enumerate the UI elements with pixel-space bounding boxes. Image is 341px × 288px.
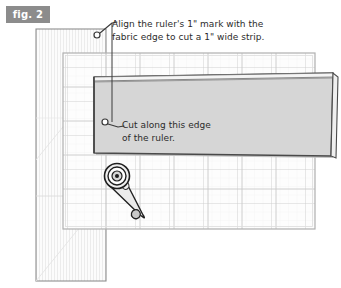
- cutter-axle: [115, 174, 119, 178]
- cut-callout-text: Cut along this edge of the ruler.: [122, 119, 262, 144]
- align-callout-marker: [94, 32, 100, 38]
- quilting-ruler: [94, 73, 338, 158]
- align-callout-text: Align the ruler's 1" mark with the fabri…: [112, 18, 328, 43]
- cut-callout-marker: [102, 119, 108, 125]
- cutter-handle-end: [131, 210, 140, 219]
- illustration-canvas: [0, 0, 341, 288]
- figure-illustration: fig. 2: [0, 0, 341, 288]
